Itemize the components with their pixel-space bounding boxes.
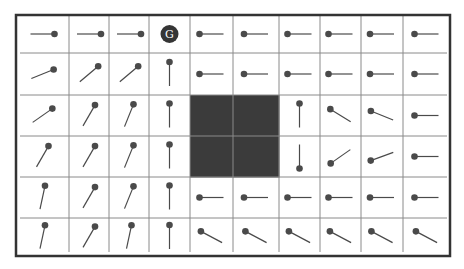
policy-arrow-icon: [125, 183, 137, 209]
policy-arrow-icon: [117, 31, 144, 38]
policy-arrow-icon: [40, 222, 48, 249]
policy-arrow-icon: [83, 184, 98, 208]
policy-arrow-icon: [296, 100, 303, 127]
policy-arrow-icon: [413, 228, 437, 243]
wall-cell: [233, 95, 280, 137]
policy-arrow-icon: [37, 143, 52, 167]
policy-arrow-icon: [411, 153, 438, 160]
policy-arrow-icon: [284, 194, 311, 201]
policy-arrow-icon: [83, 143, 98, 167]
policy-arrow-icon: [31, 66, 57, 78]
policy-arrow-icon: [284, 71, 311, 78]
policy-arrow-icon: [296, 145, 303, 172]
policy-arrow-icon: [198, 228, 222, 243]
policy-arrow-icon: [327, 150, 350, 167]
policy-arrow-icon: [241, 71, 268, 78]
policy-arrow-icon: [367, 194, 394, 201]
policy-arrow-icon: [286, 228, 310, 243]
wall-cell: [190, 136, 234, 178]
policy-arrow-icon: [196, 71, 223, 78]
policy-arrow-icon: [166, 100, 173, 127]
policy-arrow-icon: [325, 194, 352, 201]
policy-arrow-icon: [80, 63, 102, 82]
policy-arrow-icon: [120, 63, 142, 82]
policy-arrow-icon: [241, 194, 268, 201]
policy-arrow-icon: [83, 223, 98, 247]
policy-arrow-icon: [40, 182, 48, 209]
policy-arrow-icon: [166, 59, 173, 86]
policy-arrow-icon: [411, 71, 438, 78]
policy-arrow-icon: [325, 71, 352, 78]
policy-arrow-icon: [411, 112, 438, 119]
policy-arrow-icon: [77, 31, 104, 38]
policy-arrow-icon: [33, 105, 56, 122]
policy-arrow-icon: [367, 71, 394, 78]
policy-arrow-icon: [83, 102, 98, 126]
policy-arrow-icon: [325, 31, 352, 38]
policy-arrow-icon: [196, 194, 223, 201]
policy-arrow-icon: [367, 31, 394, 38]
policy-arrow-icon: [127, 222, 135, 249]
policy-arrow-icon: [411, 31, 438, 38]
goal-label: G: [165, 28, 174, 41]
policy-arrow-icon: [166, 222, 173, 249]
policy-arrow-icon: [31, 31, 58, 38]
gridworld-canvas: G: [0, 0, 464, 269]
policy-arrow-icon: [241, 31, 268, 38]
wall-cell: [190, 95, 234, 137]
policy-arrow-icon: [196, 31, 223, 38]
goal-cell: G: [161, 25, 179, 43]
policy-arrow-icon: [327, 228, 351, 243]
gridworld-diagram: G: [0, 0, 464, 269]
wall-cell: [233, 136, 280, 178]
policy-arrow-icon: [368, 228, 392, 243]
policy-arrow-icon: [166, 182, 173, 209]
policy-arrow-icon: [284, 31, 311, 38]
policy-arrow-icon: [125, 101, 137, 127]
policy-arrow-icon: [411, 194, 438, 201]
grid-lines: [20, 15, 447, 252]
policy-arrow-icon: [367, 152, 393, 164]
policy-arrow-icon: [166, 141, 173, 168]
policy-arrow-icon: [242, 228, 266, 243]
policy-arrow-icon: [327, 106, 351, 122]
policy-arrow-icon: [368, 108, 394, 120]
policy-arrow-icon: [125, 142, 137, 168]
